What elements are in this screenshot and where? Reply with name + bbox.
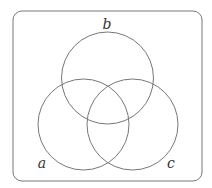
- set-a-circle: [38, 79, 129, 170]
- set-a-label: a: [38, 155, 46, 171]
- set-c-label: c: [167, 155, 175, 171]
- venn-diagram: b a c: [0, 0, 212, 188]
- set-b-label: b: [103, 16, 112, 32]
- set-c-circle: [87, 79, 178, 170]
- set-b-circle: [62, 32, 154, 124]
